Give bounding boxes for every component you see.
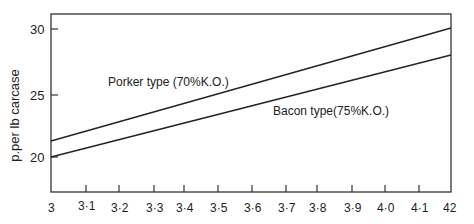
- x-tick-label: 4·1: [411, 201, 428, 215]
- x-tick-label: 3·4: [176, 201, 193, 215]
- plot-frame: [51, 14, 451, 192]
- x-tick-label: 3·6: [244, 201, 261, 215]
- x-tick-label: 3·9: [344, 201, 361, 215]
- chart-plot: [0, 0, 474, 224]
- x-tick-label: 3·8: [309, 201, 326, 215]
- x-tick-label: 3·2: [111, 201, 128, 215]
- bacon-series-label: Bacon type(75%K.O.): [273, 104, 389, 118]
- bacon-line: [51, 55, 451, 157]
- y-tick-label-20: 20: [30, 150, 44, 165]
- x-tick-label: 3·3: [146, 201, 163, 215]
- y-axis-label: p.per lb carcase: [3, 40, 25, 190]
- y-tick-label-25: 25: [30, 88, 44, 103]
- x-ticks: [86, 185, 419, 192]
- porker-series-label: Porker type (70%K.O.): [108, 75, 229, 89]
- x-tick-label: 3·7: [278, 201, 295, 215]
- y-tick-label-30: 30: [30, 22, 44, 37]
- x-tick-label: 3·5: [210, 201, 227, 215]
- x-tick-label: 3·1: [78, 199, 95, 213]
- x-tick-label: 3: [48, 201, 55, 215]
- x-tick-label: 42: [443, 201, 456, 215]
- x-tick-label: 4·0: [377, 201, 394, 215]
